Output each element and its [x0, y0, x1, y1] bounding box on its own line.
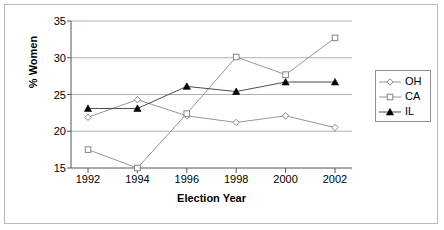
chart-legend: OHCAIL [375, 70, 431, 122]
y-tick-label: 35 [32, 16, 66, 27]
legend-item-oh[interactable]: OH [376, 74, 430, 89]
legend-marker-triangle-icon [378, 105, 402, 119]
y-tick-label: 25 [32, 89, 66, 100]
y-tick-label: 20 [32, 126, 66, 137]
x-tick-label: 1996 [160, 174, 214, 185]
legend-label: CA [402, 91, 420, 102]
legend-item-il[interactable]: IL [376, 104, 430, 119]
data-point-marker [85, 147, 91, 153]
x-tick-label: 1992 [61, 174, 115, 185]
x-axis-title: Election Year [71, 192, 352, 204]
data-point-marker [282, 113, 288, 119]
data-point-marker [134, 96, 140, 102]
legend-marker-diamond-icon [378, 75, 402, 89]
legend-marker-square-icon [378, 90, 402, 104]
legend-label: OH [402, 76, 422, 87]
x-tick-label: 1994 [110, 174, 164, 185]
data-point-marker [184, 111, 190, 117]
data-point-marker [233, 119, 239, 125]
y-axis-tick-labels: 1520253035 [32, 21, 66, 168]
x-axis-tick-labels: 199219941996199820002002 [71, 174, 352, 190]
plot-svg [71, 21, 352, 168]
x-tick-label: 2000 [259, 174, 313, 185]
y-tick-label: 15 [32, 163, 66, 174]
x-tick-label: 2002 [308, 174, 362, 185]
data-point-marker [183, 83, 190, 90]
plot-area [71, 21, 352, 168]
data-point-marker [332, 35, 338, 41]
x-tick-label: 1998 [209, 174, 263, 185]
chart-screenshot: % Women 1520253035 199219941996199820002… [0, 0, 444, 230]
data-point-marker [135, 165, 141, 171]
data-point-marker [387, 78, 393, 84]
data-point-marker [233, 54, 239, 60]
series-oh [85, 96, 338, 130]
series-line [88, 100, 335, 128]
data-point-marker [332, 124, 338, 130]
data-point-marker [85, 114, 91, 120]
legend-label: IL [402, 106, 414, 117]
series-il [84, 78, 338, 111]
legend-item-ca[interactable]: CA [376, 89, 430, 104]
series-ca [85, 35, 338, 171]
data-point-marker [387, 94, 393, 100]
y-tick-label: 30 [32, 52, 66, 63]
data-point-marker [283, 72, 289, 78]
